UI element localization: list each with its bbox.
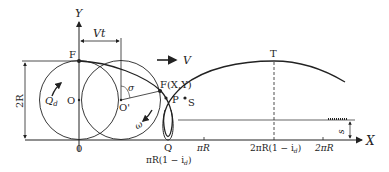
omega-rotation-arrow: [143, 110, 152, 121]
center-o-label: O: [67, 95, 75, 106]
flow-label: Qd: [45, 95, 58, 108]
2r-label: 2R: [14, 94, 25, 108]
point-q-label: Q: [164, 142, 172, 153]
center-o-prime-label: O': [119, 102, 130, 113]
y-axis-label: Y: [75, 7, 84, 20]
x-axis-label: X: [365, 134, 375, 148]
origin-label: 0: [76, 143, 82, 154]
tick-label-t: 2πR(1 − id): [250, 143, 301, 154]
point-s-label: S: [188, 97, 195, 108]
velocity-label: V: [183, 54, 192, 67]
point-f-start-label: F: [69, 49, 76, 60]
s-label: s: [336, 129, 346, 134]
trochoid-diagram: X Y 0 O O' Vt 2R σ F F(X,Y) P S Q T V Qd…: [0, 0, 389, 172]
flow-rotation-arrow: [52, 83, 61, 96]
radius-line: [121, 91, 160, 100]
point-f-moving-label: F(X,Y): [160, 79, 192, 90]
center-o-dot: [78, 99, 80, 101]
point-p: [164, 96, 167, 99]
tick-label-2pi-r: 2πR: [314, 143, 334, 153]
point-f-start: [77, 59, 81, 63]
tick-label-pi-r: πR: [196, 143, 210, 153]
point-t-label: T: [270, 48, 277, 59]
point-p-label: P: [172, 94, 179, 105]
vt-label: Vt: [93, 27, 106, 40]
angle-label: σ: [128, 83, 135, 93]
tick-label-q: πR(1 − id): [146, 155, 191, 166]
point-s: [183, 96, 186, 99]
